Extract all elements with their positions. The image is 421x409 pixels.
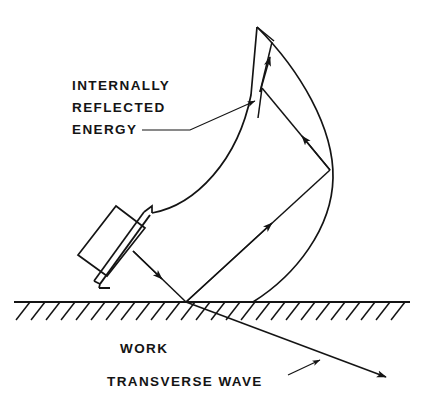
- label-internally: INTERNALLY: [72, 78, 170, 93]
- internally-reflected-beam-envelope: [152, 27, 333, 302]
- internal-reflection-rays: [186, 27, 330, 302]
- wedge-top-notch: [144, 206, 152, 213]
- transverse-ray-line: [186, 302, 386, 377]
- ray-outer-to-inner-arc-arrow: [302, 136, 330, 170]
- label-energy: ENERGY: [72, 122, 137, 137]
- wedge-foot: [94, 281, 100, 284]
- diagram-canvas: INTERNALLY REFLECTED ENERGY WORK TRANSVE…: [0, 0, 421, 409]
- ray-apex-segment: [257, 27, 274, 41]
- incident-ray-arrow: [133, 251, 162, 279]
- wedge-face-outer: [100, 215, 150, 284]
- beam-envelope-inner-arc: [152, 27, 257, 213]
- angle-beam-transducer-wedge: [78, 206, 152, 288]
- leader-lines: [142, 101, 320, 375]
- leader-transverse-wave: [288, 360, 320, 375]
- wedge-face-inner: [94, 212, 144, 281]
- ray-inner-arc-connector: [258, 88, 262, 118]
- ultrasonic-transducer-diagram: INTERNALLY REFLECTED ENERGY WORK TRANSVE…: [0, 0, 421, 409]
- wedge-foot-edge: [99, 284, 100, 288]
- ray-ground-to-outer-arc-arrow: [186, 223, 272, 302]
- label-reflected: REFLECTED: [72, 100, 166, 115]
- transverse-wave-ray: [186, 302, 386, 377]
- label-work: WORK: [120, 341, 168, 356]
- transducer-crystal-block: [78, 206, 145, 276]
- incident-beam-ray: [133, 251, 186, 302]
- label-transverse-wave: TRANSVERSE WAVE: [107, 374, 263, 389]
- ray-inner-arc-to-apex-arrow: [260, 57, 270, 92]
